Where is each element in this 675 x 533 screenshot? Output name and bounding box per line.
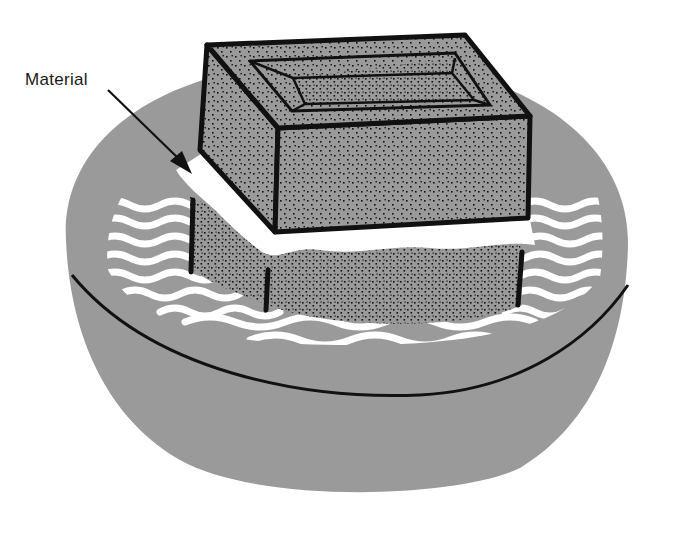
support-leg [266,270,268,310]
support-leg [191,200,193,272]
basin-box-illustration [0,0,675,533]
box-front-face [275,116,530,232]
material-label: Material [25,70,88,90]
